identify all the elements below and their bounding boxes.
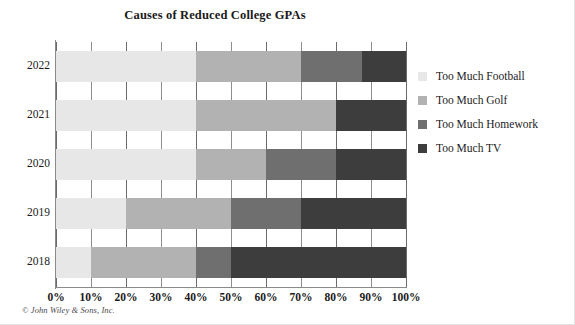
- y-axis-tick-label: 2018: [2, 255, 50, 267]
- bar-segment: [231, 198, 301, 229]
- legend-label: Too Much Football: [436, 70, 525, 82]
- bar-segment: [196, 247, 231, 278]
- legend-label: Too Much Golf: [436, 94, 507, 106]
- gridline: [406, 42, 407, 287]
- x-axis-line: [55, 287, 407, 288]
- bar-segment: [196, 149, 266, 180]
- bar-row: [56, 198, 406, 229]
- chart-legend: Too Much FootballToo Much GolfToo Much H…: [418, 64, 568, 160]
- legend-label: Too Much Homework: [436, 118, 538, 130]
- y-axis-tick-labels: 20222021202020192018: [0, 42, 50, 287]
- y-axis-tick-label: 2019: [2, 206, 50, 218]
- y-axis-tick-label: 2020: [2, 157, 50, 169]
- chart-figure: Causes of Reduced College GPAs 202220212…: [0, 0, 575, 325]
- legend-label: Too Much TV: [436, 142, 501, 154]
- y-axis-tick-label: 2022: [2, 59, 50, 71]
- bar-segment: [301, 198, 406, 229]
- y-axis-tick-label: 2021: [2, 108, 50, 120]
- legend-item[interactable]: Too Much TV: [418, 136, 568, 160]
- bar-segment: [126, 198, 231, 229]
- bar-segment: [266, 149, 336, 180]
- bar-segment: [56, 100, 196, 131]
- bar-row: [56, 51, 406, 82]
- bar-row: [56, 247, 406, 278]
- bar-segment: [56, 51, 196, 82]
- bar-segment: [91, 247, 196, 278]
- legend-swatch-icon: [418, 72, 427, 81]
- legend-item[interactable]: Too Much Homework: [418, 112, 568, 136]
- bar-segment: [196, 100, 336, 131]
- plot-area: [56, 42, 406, 287]
- bar-row: [56, 100, 406, 131]
- chart-title: Causes of Reduced College GPAs: [0, 8, 430, 23]
- bar-segment: [362, 51, 406, 82]
- bar-row: [56, 149, 406, 180]
- copyright-credit: © John Wiley & Sons, Inc.: [22, 305, 115, 315]
- bar-segment: [336, 149, 406, 180]
- stacked-bars: [56, 42, 406, 287]
- bar-segment: [336, 100, 406, 131]
- bar-segment: [56, 198, 126, 229]
- bar-segment: [56, 247, 91, 278]
- legend-swatch-icon: [418, 120, 427, 129]
- x-axis-tick-label: 100%: [384, 291, 428, 303]
- bar-segment: [301, 51, 362, 82]
- legend-swatch-icon: [418, 144, 427, 153]
- legend-item[interactable]: Too Much Football: [418, 64, 568, 88]
- bar-segment: [231, 247, 406, 278]
- legend-swatch-icon: [418, 96, 427, 105]
- bar-segment: [56, 149, 196, 180]
- bar-segment: [196, 51, 301, 82]
- legend-item[interactable]: Too Much Golf: [418, 88, 568, 112]
